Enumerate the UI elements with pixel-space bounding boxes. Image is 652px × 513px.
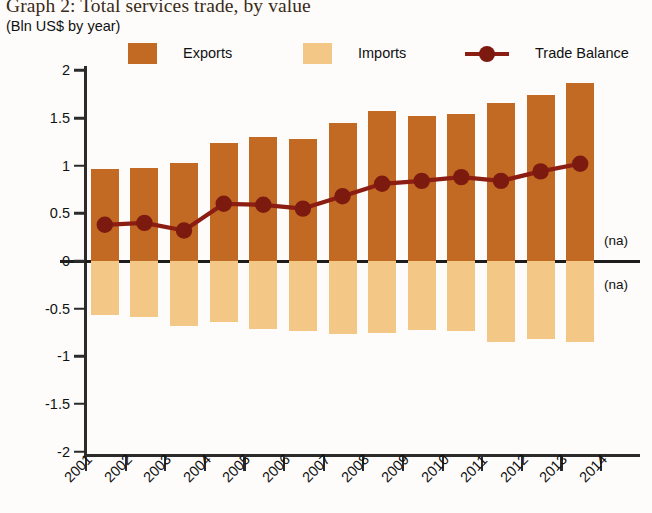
x-tick-label-2011: 2011	[457, 452, 490, 485]
y-tick-mark	[74, 212, 85, 215]
y-tick-mark	[74, 117, 85, 120]
x-tick-label-2013: 2013	[536, 451, 570, 485]
y-tick-label: 0.5	[50, 205, 70, 221]
x-tick-label-2012: 2012	[497, 451, 531, 485]
bar-import-2012[interactable]	[527, 261, 555, 339]
y-tick-mark	[74, 164, 85, 167]
square-swatch-icon	[303, 43, 332, 64]
legend-label-imports: Imports	[358, 45, 406, 61]
y-tick-mark	[74, 260, 85, 263]
legend-label-trade-balance: Trade Balance	[535, 45, 629, 61]
plot-area	[85, 70, 600, 451]
bar-import-2013[interactable]	[566, 261, 594, 342]
x-tick-label-2014: 2014	[576, 451, 610, 485]
bar-import-2006[interactable]	[289, 261, 317, 331]
na-below-zero-label: (na)	[604, 277, 628, 292]
x-tick-label-2005: 2005	[219, 451, 253, 485]
x-tick-label-2002: 2002	[101, 451, 135, 485]
bar-export-2005[interactable]	[249, 137, 277, 261]
bar-export-2003[interactable]	[170, 163, 198, 261]
bar-export-2010[interactable]	[447, 114, 475, 261]
x-tick-label-2004: 2004	[180, 451, 214, 485]
legend-item-exports[interactable]: Exports	[128, 40, 232, 66]
x-tick-label-2007: 2007	[299, 451, 333, 485]
y-tick-label: 1.5	[50, 110, 70, 126]
x-tick-label-2009: 2009	[378, 451, 412, 485]
bar-export-2013[interactable]	[566, 83, 594, 261]
bar-export-2011[interactable]	[487, 103, 515, 261]
legend-item-trade-balance[interactable]: Trade Balance	[465, 40, 629, 66]
legend-label-exports: Exports	[183, 45, 232, 61]
y-tick-mark	[74, 69, 85, 72]
line-marker-icon	[465, 43, 509, 64]
bar-import-2007[interactable]	[329, 261, 357, 334]
x-tick-label-2003: 2003	[140, 451, 174, 485]
bar-export-2007[interactable]	[329, 123, 357, 261]
y-tick-mark	[74, 450, 85, 453]
na-above-zero-label: (na)	[604, 233, 628, 248]
x-tick-label-2006: 2006	[259, 451, 293, 485]
bar-import-2008[interactable]	[368, 261, 396, 333]
x-axis-labels: 2001200220032004200520062007200820092010…	[0, 456, 652, 513]
bar-import-2009[interactable]	[408, 261, 436, 330]
y-tick-label: -0.5	[45, 301, 70, 317]
bar-import-2005[interactable]	[249, 261, 277, 329]
y-tick-mark	[74, 403, 85, 406]
bar-import-2011[interactable]	[487, 261, 515, 342]
bar-export-2009[interactable]	[408, 116, 436, 261]
y-tick-mark	[74, 307, 85, 310]
y-tick-label: 1	[62, 158, 70, 174]
bar-import-2001[interactable]	[91, 261, 119, 315]
x-tick-label-2001: 2001	[61, 451, 95, 485]
bar-export-2002[interactable]	[130, 168, 158, 261]
bar-export-2004[interactable]	[210, 143, 238, 261]
y-axis-labels: 21.510.50-0.5-1-1.5-2	[0, 0, 70, 513]
bar-export-2008[interactable]	[368, 111, 396, 261]
bar-import-2003[interactable]	[170, 261, 198, 326]
legend-item-imports[interactable]: Imports	[303, 40, 406, 66]
bar-import-2010[interactable]	[447, 261, 475, 331]
square-swatch-icon	[128, 43, 157, 64]
bar-import-2002[interactable]	[130, 261, 158, 317]
bar-import-2004[interactable]	[210, 261, 238, 322]
bar-export-2012[interactable]	[527, 95, 555, 261]
bar-export-2006[interactable]	[289, 139, 317, 261]
bar-export-2001[interactable]	[91, 169, 119, 261]
y-tick-label: -1.5	[45, 396, 70, 412]
x-tick-label-2008: 2008	[338, 451, 372, 485]
y-tick-label: -1	[57, 348, 70, 364]
chart-container: Graph 2: Total services trade, by value …	[0, 0, 652, 513]
y-tick-mark	[74, 355, 85, 358]
chart-legend: Exports Imports Trade Balance	[120, 40, 640, 66]
x-tick-label-2010: 2010	[418, 451, 452, 485]
y-tick-label: 2	[62, 62, 70, 78]
